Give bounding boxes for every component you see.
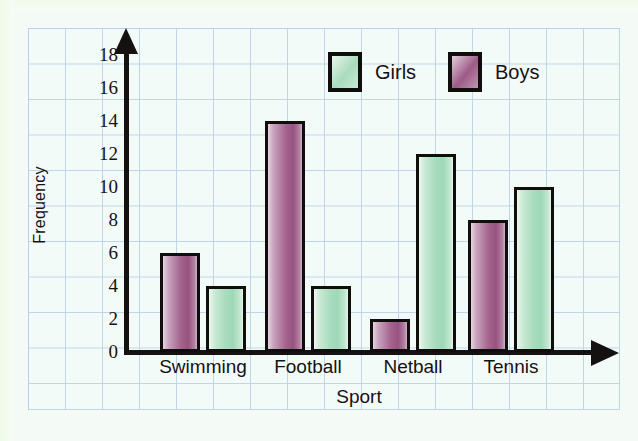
x-tick-label-tennis: Tennis xyxy=(451,356,571,378)
bar-tennis-boys xyxy=(468,220,508,352)
bar-netball-boys xyxy=(370,319,410,352)
chart-page: 024681012141618 Frequency SwimmingFootba… xyxy=(0,0,638,441)
legend-label: Boys xyxy=(495,61,539,84)
bar-swimming-boys xyxy=(160,253,200,352)
bar-chart-plot: 024681012141618 Frequency SwimmingFootba… xyxy=(0,0,638,441)
legend-swatch-girls xyxy=(328,52,362,92)
bar-swimming-girls xyxy=(206,286,246,352)
legend-item-boys: Boys xyxy=(448,52,539,92)
bar-football-boys xyxy=(265,121,305,352)
x-tick-label-swimming: Swimming xyxy=(143,356,263,378)
bar-netball-girls xyxy=(416,154,456,352)
legend-label: Girls xyxy=(375,61,416,84)
x-tick-label-football: Football xyxy=(248,356,368,378)
legend-item-girls: Girls xyxy=(328,52,416,92)
legend-swatch-boys xyxy=(448,52,482,92)
bar-tennis-girls xyxy=(514,187,554,352)
x-axis-title: Sport xyxy=(299,386,419,408)
bar-football-girls xyxy=(311,286,351,352)
